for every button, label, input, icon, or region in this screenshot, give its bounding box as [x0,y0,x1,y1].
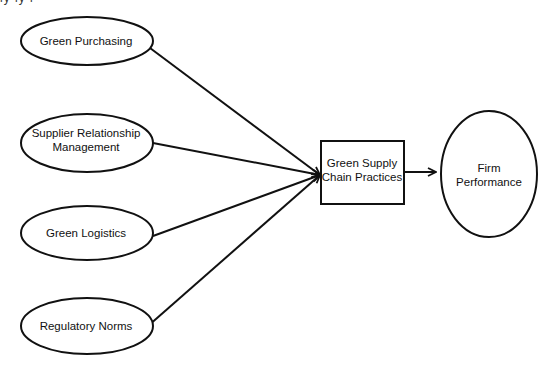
node-green-logistics: Green Logistics [21,206,153,260]
edge-rn-to-gscp [148,175,320,326]
node-supplier-relationship-management: Supplier Relationship Management [21,114,153,172]
node-green-supply-chain-practices: Green Supply Chain Practices [321,141,404,204]
ellipse-shape [441,111,537,237]
diagram-canvas: Green Purchasing Supplier Relationship M… [0,0,552,365]
node-label-line-2: Chain Practices [322,171,403,183]
edge-gl-to-gscp [153,175,320,236]
node-regulatory-norms: Regulatory Norms [21,298,153,354]
node-label: Green Logistics [46,227,126,239]
edge-gp-to-gscp [150,48,320,175]
node-label-line-1: Green Supply [327,157,398,169]
edge-srm-to-gscp [153,143,320,175]
node-label: Green Purchasing [40,35,133,47]
node-label-line-2: Performance [456,176,522,188]
node-label: Regulatory Norms [40,320,133,332]
node-green-purchasing: Green Purchasing [21,17,153,65]
node-label-line-1: Firm [478,162,501,174]
node-firm-performance: Firm Performance [441,111,537,237]
node-label-line-1: Supplier Relationship [32,127,141,139]
node-label-line-2: Management [52,141,120,153]
